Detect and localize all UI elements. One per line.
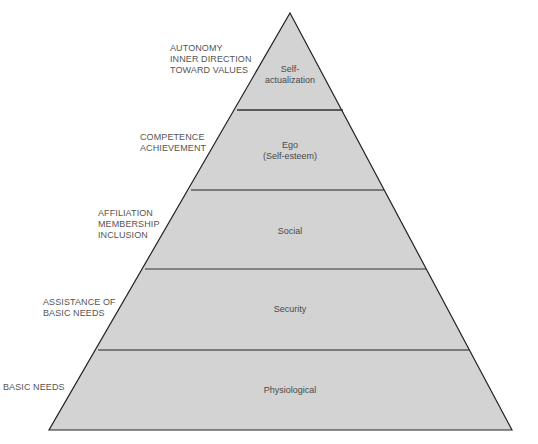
side-label-ego: COMPETENCE ACHIEVEMENT [140,132,206,154]
side-label-line: MEMBERSHIP [98,219,160,230]
side-label-line: BASIC NEEDS [3,382,65,393]
side-label-line: INNER DIRECTION [170,54,252,65]
tier-name-line2: (Self-esteem) [263,151,317,161]
side-label-line: BASIC NEEDS [43,308,116,319]
tier-name-line1: Ego [282,140,298,150]
tier-name-line1: Self- [281,64,300,74]
tier-name-line2: actualization [265,75,315,85]
side-label-line: AUTONOMY [170,43,252,54]
side-label-self-actualization: AUTONOMY INNER DIRECTION TOWARD VALUES [170,43,252,76]
tier-name: Social [278,226,303,236]
side-label-line: ACHIEVEMENT [140,143,206,154]
tier-name: Security [274,304,307,314]
side-label-line: TOWARD VALUES [170,65,252,76]
tier-name: Physiological [264,385,317,395]
side-label-line: INCLUSION [98,230,160,241]
tier-security: Security [274,304,307,314]
tier-social: Social [278,226,303,236]
pyramid-diagram: Self- actualization Ego (Self-esteem) So… [0,0,538,444]
side-label-security: ASSISTANCE OF BASIC NEEDS [43,297,116,319]
tier-physiological: Physiological [264,385,317,395]
side-label-physiological: BASIC NEEDS [3,382,65,393]
side-label-social: AFFILIATION MEMBERSHIP INCLUSION [98,208,160,241]
side-label-line: COMPETENCE [140,132,206,143]
side-label-line: ASSISTANCE OF [43,297,116,308]
side-label-line: AFFILIATION [98,208,160,219]
